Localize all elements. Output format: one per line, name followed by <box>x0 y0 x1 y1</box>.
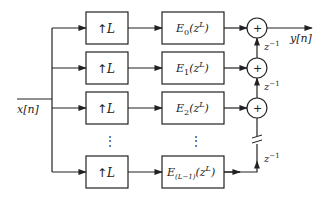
ellipsis: ⋮ <box>190 134 202 148</box>
svg-text:L: L <box>106 22 115 36</box>
ellipsis: ⋮ <box>104 134 116 148</box>
svg-text:E0(zL): E0(zL) <box>175 20 209 37</box>
last-branch-output <box>224 161 257 172</box>
svg-text:z−1: z−1 <box>263 152 280 164</box>
up-arrow-icon: ↑ <box>97 102 107 116</box>
plus-icon: + <box>253 62 262 75</box>
adder-symbols: + + + <box>253 22 262 115</box>
svg-text:L: L <box>106 102 115 116</box>
svg-text:E1(zL): E1(zL) <box>175 60 209 77</box>
input-label: x[n] <box>17 103 40 116</box>
block-diagram: ↑ L ↑ L ↑ L ↑ L E0(zL) E1(zL) E2(zL) E(L… <box>0 0 327 205</box>
up-arrow-icon: ↑ <box>97 22 107 36</box>
up-arrow-icon: ↑ <box>97 166 107 180</box>
svg-text:E(L−1)(zL): E(L−1)(zL) <box>166 164 215 181</box>
plus-icon: + <box>253 22 262 35</box>
svg-text:z−1: z−1 <box>263 40 280 52</box>
svg-text:z−1: z−1 <box>263 80 280 92</box>
svg-text:L: L <box>106 166 115 180</box>
svg-text:L: L <box>106 62 115 76</box>
output-label: y[n] <box>289 32 313 45</box>
svg-text:E2(zL): E2(zL) <box>175 100 209 117</box>
plus-icon: + <box>253 102 262 115</box>
up-arrow-icon: ↑ <box>97 62 107 76</box>
